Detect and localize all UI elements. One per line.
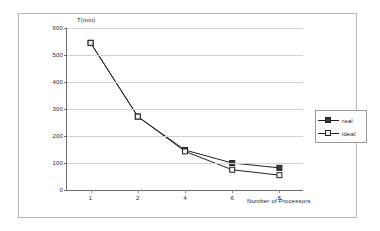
x-tick-label: 2 xyxy=(136,195,140,201)
x-tick-label: 4 xyxy=(183,195,187,201)
plot-area: 010020030040050060012468 xyxy=(66,28,303,191)
y-tick-label: 100 xyxy=(52,160,63,166)
gridline xyxy=(67,163,303,164)
y-tick-label: 0 xyxy=(59,187,63,193)
y-tick-label: 600 xyxy=(52,25,63,31)
data-point-real xyxy=(277,165,282,170)
y-axis-title: T(min) xyxy=(77,17,96,23)
legend-item-real: real xyxy=(318,114,364,127)
y-tick-mark xyxy=(64,55,67,56)
x-tick-mark xyxy=(279,190,280,193)
gridline xyxy=(67,55,303,56)
gridline xyxy=(67,136,303,137)
x-tick-mark xyxy=(138,190,139,193)
y-tick-mark xyxy=(64,82,67,83)
data-point-ideal xyxy=(135,114,140,119)
x-tick-label: 6 xyxy=(230,195,234,201)
gridline xyxy=(67,82,303,83)
x-tick-mark xyxy=(91,190,92,193)
data-point-ideal xyxy=(277,173,282,178)
y-tick-mark xyxy=(64,190,67,191)
x-tick-label: 1 xyxy=(89,195,93,201)
x-tick-mark xyxy=(185,190,186,193)
chart-figure: T(min) 010020030040050060012468 Number o… xyxy=(18,13,357,218)
y-tick-label: 200 xyxy=(52,133,63,139)
data-point-ideal xyxy=(88,40,93,45)
legend-label-ideal: ideal xyxy=(342,131,356,137)
legend-marker-real-icon xyxy=(318,115,339,126)
x-axis-title: Number of Processors xyxy=(247,198,311,204)
data-point-ideal xyxy=(183,149,188,154)
y-tick-label: 400 xyxy=(52,79,63,85)
legend-label-real: real xyxy=(342,118,353,124)
y-tick-mark xyxy=(64,109,67,110)
y-tick-mark xyxy=(64,28,67,29)
gridline xyxy=(67,28,303,29)
y-tick-mark xyxy=(64,136,67,137)
x-tick-mark xyxy=(232,190,233,193)
legend-item-ideal: ideal xyxy=(318,127,364,140)
data-point-ideal xyxy=(230,167,235,172)
y-tick-label: 300 xyxy=(52,106,63,112)
y-tick-mark xyxy=(64,163,67,164)
y-tick-label: 500 xyxy=(52,52,63,58)
legend-marker-ideal-icon xyxy=(318,128,339,139)
gridline xyxy=(67,109,303,110)
chart-legend: real ideal xyxy=(315,110,367,143)
